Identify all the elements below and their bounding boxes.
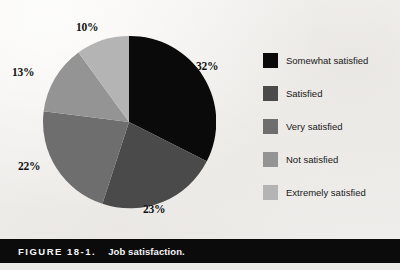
legend-label: Somewhat satisfied: [286, 55, 368, 66]
legend-swatch-icon: [263, 185, 278, 200]
pie-data-label-somewhat-satisfied: 32%: [196, 60, 218, 72]
pie-data-label-extremely-satisfied: 10%: [76, 21, 98, 33]
plot-area: 32% 23% 22% 13% 10% Somewhat satisfied S…: [0, 0, 400, 238]
figure-number: FIGURE 18-1.: [18, 246, 96, 257]
legend-item-satisfied: Satisfied: [263, 77, 397, 110]
legend-label: Not satisfied: [286, 154, 338, 165]
legend-item-very-satisfied: Very satisfied: [263, 110, 397, 143]
pie-chart-svg: [42, 35, 216, 209]
legend-label: Very satisfied: [286, 121, 343, 132]
legend-label: Satisfied: [286, 88, 322, 99]
legend-swatch-icon: [263, 86, 278, 101]
pie-data-label-satisfied: 23%: [143, 203, 165, 215]
pie-data-label-not-satisfied: 13%: [12, 66, 34, 78]
pie-chart: [42, 35, 216, 209]
legend-item-not-satisfied: Not satisfied: [263, 143, 397, 176]
legend-swatch-icon: [263, 119, 278, 134]
legend-label: Extremely satisfied: [286, 187, 366, 198]
figure-container: 32% 23% 22% 13% 10% Somewhat satisfied S…: [0, 0, 400, 270]
page-bottom-edge: [0, 263, 400, 270]
legend-swatch-icon: [263, 53, 278, 68]
chart-legend: Somewhat satisfied Satisfied Very satisf…: [263, 44, 397, 209]
legend-item-extremely-satisfied: Extremely satisfied: [263, 176, 397, 209]
figure-caption-bar: FIGURE 18-1. Job satisfaction.: [0, 239, 400, 263]
pie-data-label-very-satisfied: 22%: [18, 160, 40, 172]
legend-swatch-icon: [263, 152, 278, 167]
figure-title: Job satisfaction.: [108, 246, 185, 257]
legend-item-somewhat-satisfied: Somewhat satisfied: [263, 44, 397, 77]
